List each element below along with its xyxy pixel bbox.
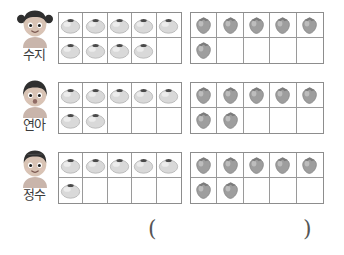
frame-cell[interactable] <box>132 13 156 38</box>
apple-icon <box>133 17 154 34</box>
apple-ten-frame <box>58 152 182 204</box>
frame-cell[interactable] <box>83 178 107 203</box>
answer-line: () <box>0 214 344 246</box>
frame-cell[interactable] <box>132 108 156 133</box>
worksheet-canvas: 수지연아정수() <box>0 0 344 255</box>
frame-cell[interactable] <box>157 38 181 63</box>
frame-cell[interactable] <box>297 108 323 133</box>
frame-cell[interactable] <box>59 153 83 178</box>
frame-cell[interactable] <box>217 108 243 133</box>
apple-icon <box>109 87 130 104</box>
apple-icon <box>60 182 81 199</box>
frame-cell[interactable] <box>297 153 323 178</box>
strawberry-icon <box>195 86 212 105</box>
frame-cell[interactable] <box>157 13 181 38</box>
apple-icon <box>60 112 81 129</box>
frame-cell[interactable] <box>217 13 243 38</box>
frame-cell[interactable] <box>191 108 217 133</box>
frame-cell[interactable] <box>217 153 243 178</box>
frame-cell[interactable] <box>83 83 107 108</box>
frame-cell[interactable] <box>217 83 243 108</box>
frame-cell[interactable] <box>108 178 132 203</box>
frame-cell[interactable] <box>83 108 107 133</box>
frame-cell[interactable] <box>157 83 181 108</box>
strawberry-icon <box>274 16 291 35</box>
frame-cell[interactable] <box>108 153 132 178</box>
frame-cell[interactable] <box>244 178 270 203</box>
frame-cell[interactable] <box>191 38 217 63</box>
apple-ten-frame <box>58 12 182 64</box>
boy-avatar <box>16 146 54 188</box>
frame-cell[interactable] <box>157 153 181 178</box>
frame-cell[interactable] <box>270 178 296 203</box>
apple-icon <box>85 17 106 34</box>
frame-cell[interactable] <box>157 108 181 133</box>
frame-cell[interactable] <box>244 83 270 108</box>
frame-cell[interactable] <box>270 108 296 133</box>
frame-cell[interactable] <box>132 83 156 108</box>
frame-cell[interactable] <box>297 83 323 108</box>
strawberry-icon <box>301 16 318 35</box>
frame-cell[interactable] <box>244 38 270 63</box>
frame-cell[interactable] <box>191 153 217 178</box>
strawberry-ten-frame <box>190 152 324 204</box>
strawberry-icon <box>248 86 265 105</box>
frame-cell[interactable] <box>108 38 132 63</box>
girl-bob-avatar <box>16 76 54 118</box>
frame-cell[interactable] <box>191 83 217 108</box>
frame-cell[interactable] <box>83 13 107 38</box>
apple-icon <box>60 157 81 174</box>
frame-cell[interactable] <box>132 38 156 63</box>
apple-icon <box>60 87 81 104</box>
strawberry-icon <box>195 111 212 130</box>
frame-cell[interactable] <box>297 178 323 203</box>
student-identity: 수지 <box>10 6 58 68</box>
frame-cell[interactable] <box>244 13 270 38</box>
strawberry-icon <box>222 86 239 105</box>
frame-cell[interactable] <box>83 38 107 63</box>
frame-cell[interactable] <box>297 13 323 38</box>
apple-icon <box>158 87 179 104</box>
frame-cell[interactable] <box>59 13 83 38</box>
student-identity: 연아 <box>10 76 58 138</box>
frame-cell[interactable] <box>270 83 296 108</box>
frame-cell[interactable] <box>59 178 83 203</box>
apple-icon <box>133 157 154 174</box>
frame-cell[interactable] <box>108 13 132 38</box>
apple-ten-frame <box>58 82 182 134</box>
strawberry-icon <box>195 181 212 200</box>
frame-cell[interactable] <box>270 13 296 38</box>
apple-icon <box>109 17 130 34</box>
strawberry-icon <box>248 156 265 175</box>
frame-cell[interactable] <box>59 38 83 63</box>
apple-icon <box>85 87 106 104</box>
apple-icon <box>85 42 106 59</box>
strawberry-icon <box>301 156 318 175</box>
frame-cell[interactable] <box>297 38 323 63</box>
frame-cell[interactable] <box>217 38 243 63</box>
frame-cell[interactable] <box>191 178 217 203</box>
apple-icon <box>158 17 179 34</box>
frame-cell[interactable] <box>157 178 181 203</box>
student-row: 연아 <box>0 76 344 138</box>
student-row: 수지 <box>0 6 344 68</box>
frame-cell[interactable] <box>59 83 83 108</box>
strawberry-icon <box>195 156 212 175</box>
frame-cell[interactable] <box>108 108 132 133</box>
frame-cell[interactable] <box>244 153 270 178</box>
frame-cell[interactable] <box>244 108 270 133</box>
frame-cell[interactable] <box>270 38 296 63</box>
frame-cell[interactable] <box>83 153 107 178</box>
answer-close-paren: ) <box>303 214 312 244</box>
strawberry-icon <box>222 16 239 35</box>
strawberry-ten-frame <box>190 82 324 134</box>
frame-cell[interactable] <box>59 108 83 133</box>
apple-icon <box>60 42 81 59</box>
frame-cell[interactable] <box>108 83 132 108</box>
frame-cell[interactable] <box>217 178 243 203</box>
frame-cell[interactable] <box>191 13 217 38</box>
strawberry-icon <box>248 16 265 35</box>
frame-cell[interactable] <box>132 153 156 178</box>
frame-cell[interactable] <box>270 153 296 178</box>
frame-cell[interactable] <box>132 178 156 203</box>
